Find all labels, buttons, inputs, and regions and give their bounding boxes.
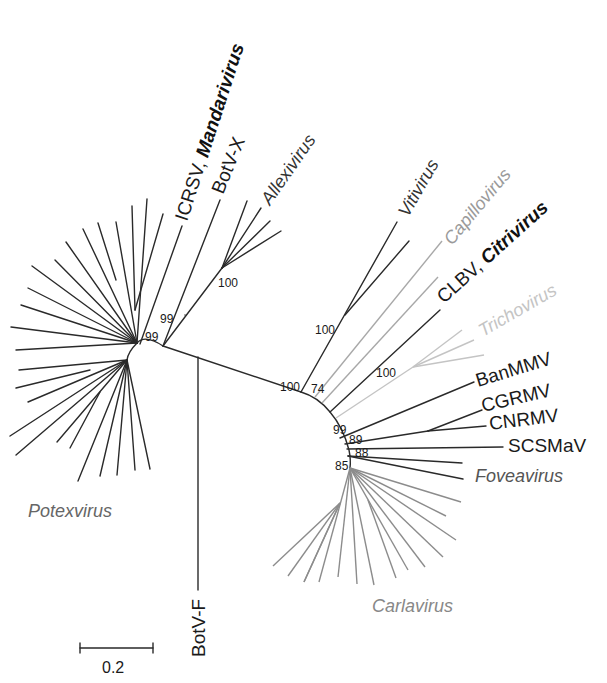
bootstrap-botvx-node: 99 [160,312,174,326]
label-trichovirus: Trichovirus [475,280,560,341]
label-allexivirus: Allexivirus [256,130,319,209]
label-foveavirus: Foveavirus [475,466,563,486]
bootstrap-values: 99 99 100 100 74 100 100 99 89 88 85 [145,276,396,473]
taxon-labels: ICRSV, Mandarivirus BotV-X Allexivirus V… [28,41,586,657]
bootstrap-74: 74 [311,382,325,396]
bootstrap-viti-100: 100 [315,323,335,337]
bootstrap-85: 85 [335,459,349,473]
label-scsmav: SCSMaV [508,435,586,456]
clbv-branch [330,310,440,412]
scale-bar: 0.2 [80,643,153,676]
bootstrap-88: 88 [355,446,369,460]
scale-bar-label: 0.2 [102,659,124,676]
label-potexvirus: Potexvirus [28,501,112,521]
label-vitivirus: Vitivirus [394,156,443,220]
bootstrap-99-banmmv: 99 [333,423,347,437]
bootstrap-allexi-node: 100 [218,276,238,290]
label-botv-f: BotV-F [188,599,209,657]
bootstrap-89: 89 [349,433,363,447]
phylogenetic-tree: ICRSV, Mandarivirus BotV-X Allexivirus V… [0,0,607,683]
bootstrap-tricho-100: 100 [376,366,396,380]
label-icrsv-mandarivirus: ICRSV, Mandarivirus [171,41,248,224]
label-carlavirus: Carlavirus [372,596,453,616]
bootstrap-central-node: 100 [280,380,300,394]
bootstrap-potex-node: 99 [145,330,159,344]
carlavirus-clade [273,468,461,585]
